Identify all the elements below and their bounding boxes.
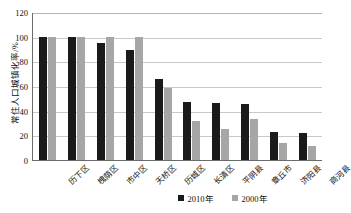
x-tick-label: 历城区 [182, 162, 207, 187]
chart-legend: 2010年2000年 [0, 192, 325, 204]
x-tick-label: 历下区 [66, 162, 91, 187]
legend-label: 2000年 [242, 192, 268, 204]
plot-area [32, 13, 322, 161]
legend-label: 2010年 [188, 192, 214, 204]
x-tick-label: 济阳县 [298, 162, 323, 187]
bar-2000 [77, 37, 85, 160]
bar-group [91, 13, 120, 160]
bar-group [293, 13, 322, 160]
bar-groups [33, 13, 322, 160]
x-tick-label: 天桥区 [153, 162, 178, 187]
bar-2010 [39, 37, 47, 160]
bar-2010 [183, 102, 191, 160]
bar-group [206, 13, 235, 160]
x-axis-tick-labels: 历下区槐荫区市中区天桥区历城区长清区平阴县章丘市济阳县商河县 [32, 162, 322, 196]
y-tick-label: 100 [4, 33, 28, 43]
bar-group [178, 13, 207, 160]
legend-item: 2010年 [178, 192, 214, 204]
x-tick-label: 市中区 [124, 162, 149, 187]
bar-2000 [279, 143, 287, 160]
legend-swatch-icon [232, 195, 238, 201]
bar-group [235, 13, 264, 160]
bar-2000 [164, 88, 172, 160]
y-tick-label: 80 [4, 57, 28, 67]
y-tick-label: 20 [4, 131, 28, 141]
legend-item: 2000年 [232, 192, 268, 204]
bar-2010 [68, 37, 76, 160]
bar-2000 [308, 146, 316, 160]
bar-2010 [155, 79, 163, 160]
y-tick-label: 60 [4, 82, 28, 92]
bar-2000 [106, 37, 114, 160]
bar-group [33, 13, 62, 160]
bar-2010 [270, 132, 278, 160]
y-tick-label: 40 [4, 107, 28, 117]
legend-swatch-icon [178, 195, 184, 201]
y-tick-label: 120 [4, 8, 28, 18]
x-tick-label: 章丘市 [269, 162, 294, 187]
bar-2000 [250, 119, 258, 160]
x-tick-label: 槐荫区 [95, 162, 120, 187]
bar-2000 [135, 37, 143, 160]
bar-group [62, 13, 91, 160]
bar-2000 [192, 121, 200, 160]
bar-2000 [221, 129, 229, 160]
bar-2010 [299, 133, 307, 160]
bar-2010 [241, 104, 249, 160]
y-tick-label: 0 [4, 156, 28, 166]
bar-group [120, 13, 149, 160]
bar-2000 [48, 37, 56, 160]
x-tick-label: 平阴县 [240, 162, 265, 187]
bar-group [149, 13, 178, 160]
x-tick-label: 长清区 [211, 162, 236, 187]
bar-2010 [97, 43, 105, 160]
bar-2010 [212, 103, 220, 160]
bar-group [264, 13, 293, 160]
bar-2010 [126, 50, 134, 160]
